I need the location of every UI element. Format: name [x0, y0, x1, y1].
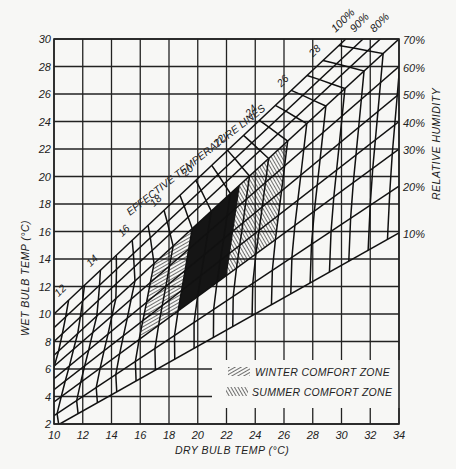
- y-tick-label: 24: [38, 116, 51, 128]
- x-tick-label: 22: [219, 429, 232, 441]
- rh-label: 50%: [403, 89, 425, 101]
- x-tick-label: 32: [364, 429, 376, 441]
- et-label: 28: [305, 42, 323, 60]
- y-tick-label: 6: [45, 363, 52, 375]
- y-tick-label: 20: [38, 171, 52, 183]
- rh-label: 20%: [402, 181, 425, 193]
- rh-label: 60%: [403, 62, 425, 74]
- y-tick-label: 30: [39, 33, 52, 45]
- y-tick-label: 2: [44, 418, 51, 430]
- y-tick-label: 18: [39, 198, 52, 210]
- y-axis-label: WET BULB TEMP (°C): [19, 220, 31, 336]
- legend-winter-label: WINTER COMFORT ZONE: [255, 366, 391, 378]
- et-line: [355, 30, 402, 239]
- rh-label: 70%: [403, 34, 425, 46]
- x-tick-label: 10: [48, 429, 61, 441]
- y-tick-label: 10: [39, 308, 52, 320]
- y-tick-label: 8: [45, 336, 52, 348]
- y-tick-label: 26: [38, 88, 52, 100]
- winter-swatch: [228, 367, 250, 376]
- x-tick-label: 16: [134, 429, 147, 441]
- x-tick-label: 24: [248, 429, 261, 441]
- x-tick-label: 14: [105, 429, 117, 441]
- x-tick-label: 34: [393, 429, 405, 441]
- y-tick-label: 28: [38, 61, 52, 73]
- y-tick-label: 4: [45, 391, 51, 403]
- y-tick-label: 16: [39, 226, 52, 238]
- et-label: 16: [115, 222, 132, 239]
- rh-top-label: 80%: [367, 10, 391, 34]
- x-tick-label: 26: [277, 429, 291, 441]
- x-tick-label: 20: [191, 429, 205, 441]
- x-tick-label: 18: [163, 429, 176, 441]
- rh-label: 40%: [403, 117, 425, 129]
- x-axis-label: DRY BULB TEMP (°C): [175, 444, 289, 456]
- psychrometric-chart: 1012141618202224262830323424681012141618…: [0, 0, 456, 469]
- et-line: [38, 300, 69, 435]
- y-tick-label: 12: [39, 281, 51, 293]
- et-label: 14: [83, 252, 100, 269]
- summer-swatch: [226, 387, 248, 396]
- rh-label: 30%: [403, 144, 425, 156]
- right-axis-label: RELATIVE HUMIDITY: [430, 87, 442, 200]
- x-tick-label: 30: [335, 429, 348, 441]
- legend-summer-label: SUMMER COMFORT ZONE: [252, 386, 393, 398]
- et-line: [339, 45, 383, 250]
- y-tick-label: 22: [38, 143, 51, 155]
- y-tick-label: 14: [39, 253, 51, 265]
- rh-label: 10%: [403, 228, 425, 240]
- x-tick-label: 12: [77, 429, 89, 441]
- x-tick-label: 28: [306, 429, 320, 441]
- et-label: 26: [273, 72, 291, 90]
